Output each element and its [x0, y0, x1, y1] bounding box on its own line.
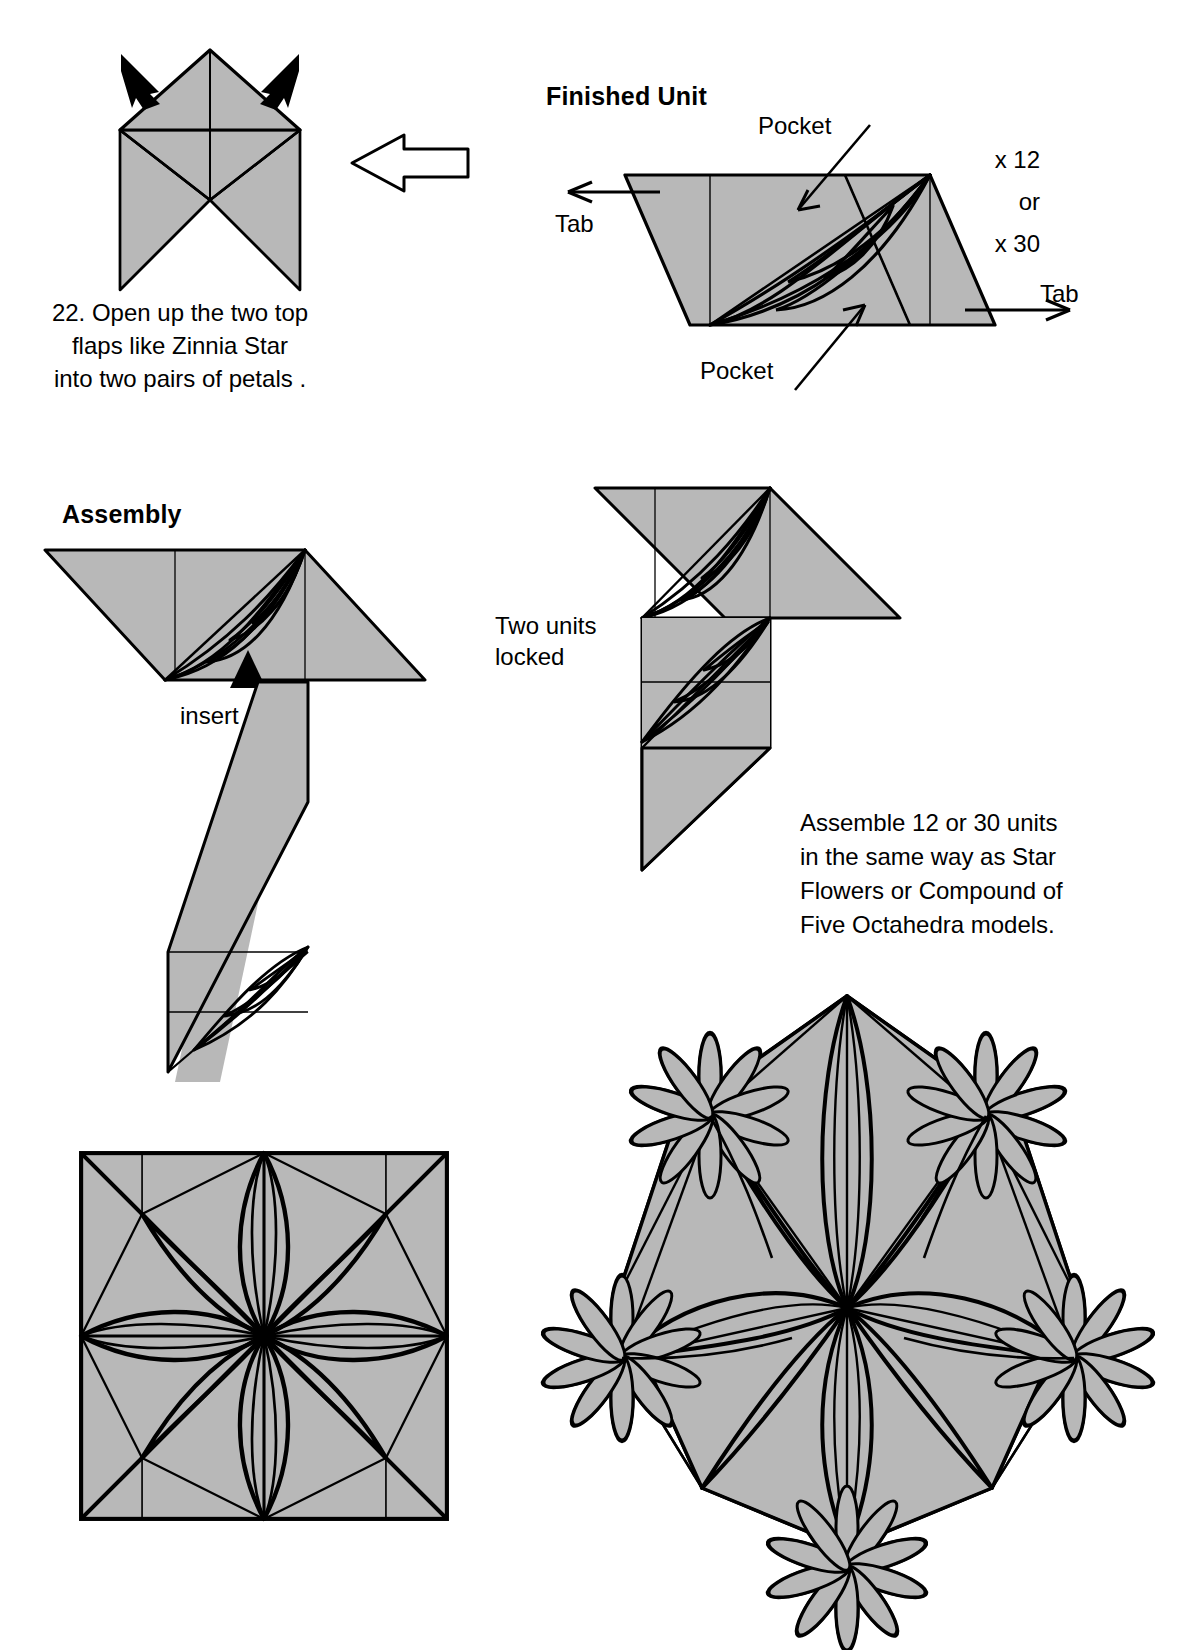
- fold-direction-arrow: [348, 125, 478, 195]
- pocket-top-label: Pocket: [758, 110, 831, 141]
- unit-count-30: x 30: [940, 228, 1040, 259]
- two-units-locked-label: Two units locked: [495, 610, 596, 672]
- unit-count-12: x 12: [940, 144, 1040, 175]
- step-22-caption: 22. Open up the two top flaps like Zinni…: [30, 296, 330, 395]
- square-flower-model-figure: [78, 1150, 450, 1522]
- push-arrow-right-icon: [260, 54, 299, 110]
- step-22-figure: [80, 40, 340, 300]
- assembly-lower-unit-figure: [150, 672, 330, 1092]
- dodecahedral-flower-ball-figure: [562, 968, 1132, 1588]
- assembly-heading: Assembly: [62, 500, 182, 529]
- diagram-page: 22. Open up the two top flaps like Zinni…: [0, 0, 1198, 1650]
- assembly-note: Assemble 12 or 30 units in the same way …: [800, 806, 1160, 942]
- push-arrow-left-icon: [121, 54, 160, 110]
- unit-count-or: or: [940, 186, 1040, 217]
- tab-left-label: Tab: [555, 208, 594, 239]
- finished-unit-heading: Finished Unit: [546, 82, 707, 111]
- pocket-bottom-label: Pocket: [700, 355, 773, 386]
- tab-right-label: Tab: [1040, 278, 1079, 309]
